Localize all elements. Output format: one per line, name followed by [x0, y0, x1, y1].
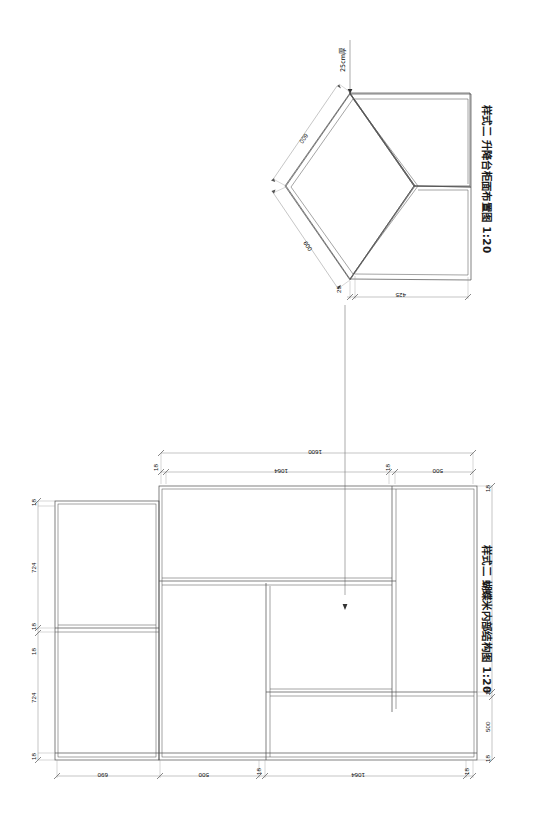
left-mid-shelf — [55, 625, 159, 632]
dim-18-bottom-mid: 18 — [255, 768, 262, 775]
dim-425: 425 — [395, 292, 406, 299]
dim-18-left-mid-b: 18 — [30, 648, 37, 655]
main-cabinet-inner — [162, 489, 474, 757]
shelf-top-centre — [159, 578, 396, 585]
connector-arrow — [343, 604, 348, 610]
dim-25: 25 — [335, 286, 342, 293]
vertical-divider-centre — [266, 583, 270, 760]
structure-view: 1600 18 1064 18 500 — [0, 440, 543, 820]
main-cabinet-outline — [159, 486, 477, 760]
dim-18-left-mid-a: 18 — [30, 623, 37, 630]
dim-1064-bottom: 1064 — [351, 772, 365, 779]
shelf-lower-centre — [266, 689, 477, 696]
top-view-title-wrap: 样式二 升降台柜面布置图 1:20 — [477, 105, 497, 305]
dim-500-bottom: 500 — [198, 772, 209, 779]
dim-18-top-mid: 18 — [384, 464, 391, 471]
structure-view-title: 样式二 蝴蝶米内部结构图 1:20 — [481, 545, 493, 694]
left-cabinet-inner — [58, 504, 156, 757]
dim-724-left-bottom: 724 — [30, 692, 37, 703]
dim-600-upper: 600 — [298, 132, 310, 145]
dim-500-top: 500 — [432, 468, 443, 475]
dim-18-right-bottom: 18 — [484, 755, 491, 762]
dim-18-bottom-right: 18 — [463, 768, 470, 775]
note-25cm-label: 25cm厚 — [339, 47, 347, 72]
hexagon-faces — [286, 94, 471, 280]
dim-lower-left-600 — [272, 187, 351, 289]
hexagon-thickness-lines — [291, 99, 468, 275]
structure-view-title-wrap: 样式二 蝴蝶米内部结构图 1:20 — [477, 545, 497, 745]
thickness-leader — [348, 40, 353, 94]
dim-18-left-top: 18 — [30, 499, 37, 506]
dim-top-chain — [158, 469, 476, 484]
dim-724-left-top: 724 — [30, 562, 37, 573]
dim-18-right-top: 18 — [484, 485, 491, 492]
top-view-title: 样式二 升降台柜面布置图 1:20 — [481, 105, 493, 254]
vertical-divider-right — [392, 486, 396, 712]
dim-1064-top: 1064 — [274, 468, 288, 475]
dim-1600-top: 1600 — [308, 449, 322, 456]
dim-upper-left-600 — [271, 84, 350, 186]
dim-690-bottom: 690 — [97, 772, 108, 779]
dim-left-chain — [35, 498, 55, 763]
dim-18-top-left: 18 — [152, 464, 159, 471]
dim-18-left-bottom: 18 — [30, 753, 37, 760]
left-cabinet-outline — [55, 501, 159, 760]
drawing-canvas: 25cm厚 600 600 25 — [0, 0, 543, 820]
dim-bottom-chain — [54, 760, 476, 779]
